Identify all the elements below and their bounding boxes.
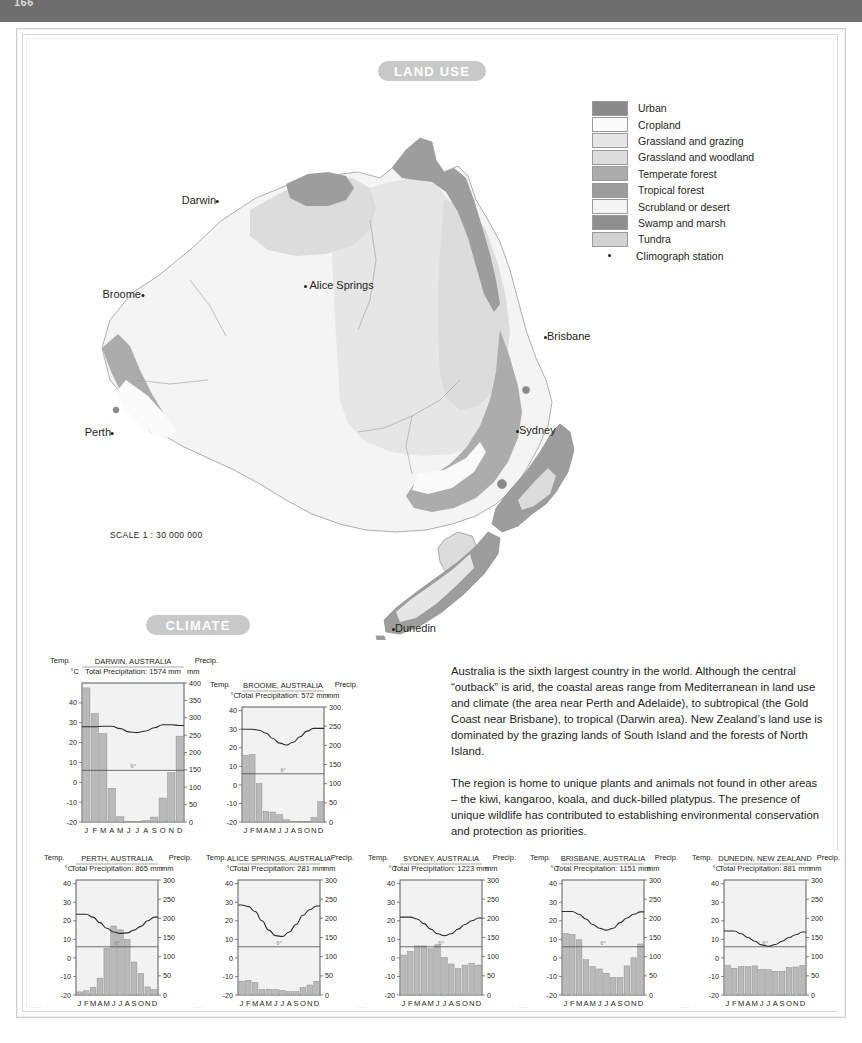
svg-text:0: 0: [391, 954, 395, 963]
svg-text:J: J: [84, 826, 88, 835]
climograph-chart: Temp.Precip.°CmmDUNEDIN, NEW ZEALANDTota…: [690, 850, 842, 1011]
svg-text:O: O: [462, 999, 468, 1008]
svg-text:30: 30: [69, 718, 77, 727]
svg-text:Temp.: Temp.: [44, 853, 64, 862]
precip-bar: [307, 985, 313, 995]
precip-bar: [252, 983, 258, 995]
city-label-darwin: Darwin: [182, 194, 219, 206]
svg-text:M: M: [414, 999, 420, 1008]
svg-text:mm: mm: [187, 667, 200, 676]
svg-text:A: A: [97, 999, 103, 1008]
precip-bar: [111, 926, 117, 995]
svg-text:A: A: [287, 999, 293, 1008]
svg-text:0: 0: [649, 991, 653, 1000]
precip-bar: [469, 963, 475, 995]
svg-text:Temp.: Temp.: [368, 853, 388, 862]
svg-text:J: J: [726, 999, 730, 1008]
svg-text:-10: -10: [547, 972, 557, 981]
precip-bar: [569, 934, 575, 995]
svg-text:-20: -20: [227, 818, 237, 827]
legend-swatch: [592, 133, 628, 148]
precip-bar: [401, 955, 407, 995]
precip-bar: [442, 957, 448, 995]
svg-text:N: N: [307, 999, 312, 1008]
legend-label: Climograph station: [636, 250, 724, 262]
svg-text:D: D: [476, 999, 482, 1008]
svg-text:J: J: [240, 999, 244, 1008]
precip-bar: [610, 977, 616, 995]
legend-label: Cropland: [638, 119, 681, 131]
legend-swatch: [592, 215, 628, 230]
precip-bar: [100, 734, 107, 822]
legend-item-urban: Urban: [592, 100, 822, 116]
svg-text:200: 200: [325, 914, 337, 923]
svg-text:0: 0: [233, 781, 237, 790]
precip-bar: [638, 944, 644, 995]
climograph-alice-springs: Temp.Precip.°CmmALICE SPRINGS, AUSTRALIA…: [204, 850, 356, 1011]
svg-text:0: 0: [163, 991, 167, 1000]
svg-text:O: O: [300, 999, 306, 1008]
svg-text:0: 0: [73, 778, 77, 787]
precip-bar: [152, 990, 158, 995]
svg-text:S: S: [132, 999, 137, 1008]
svg-text:BRISBANE, AUSTRALIA: BRISBANE, AUSTRALIA: [561, 854, 646, 863]
svg-text:N: N: [145, 999, 150, 1008]
precip-bar: [590, 967, 596, 995]
legend-label: Tundra: [638, 233, 671, 245]
precip-bar: [725, 965, 731, 995]
svg-text:A: A: [259, 999, 265, 1008]
svg-text:0: 0: [553, 954, 557, 963]
svg-text:S: S: [294, 999, 299, 1008]
svg-text:20: 20: [225, 916, 233, 925]
svg-text:D: D: [800, 999, 806, 1008]
precip-bar: [318, 802, 324, 822]
precip-bar: [772, 971, 778, 995]
svg-text:J: J: [598, 999, 602, 1008]
svg-text:A: A: [109, 826, 115, 835]
precip-bar: [745, 967, 751, 995]
svg-text:D: D: [318, 826, 324, 835]
svg-text:Total Precipitation: 881 mm: Total Precipitation: 881 mm: [719, 864, 811, 873]
precip-bar: [138, 974, 144, 995]
svg-text:20: 20: [549, 916, 557, 925]
svg-text:J: J: [760, 999, 764, 1008]
climograph-darwin: Temp.Precip.°CmmDARWIN, AUSTRALIATotal P…: [48, 653, 220, 838]
precip-bar: [793, 967, 799, 995]
svg-text:6°: 6°: [114, 940, 120, 946]
svg-text:50: 50: [325, 971, 333, 980]
svg-text:-20: -20: [547, 991, 557, 1000]
svg-text:J: J: [278, 826, 282, 835]
description-text: Australia is the sixth largest country i…: [451, 663, 826, 854]
svg-text:30: 30: [225, 898, 233, 907]
svg-text:Temp.: Temp.: [210, 680, 230, 689]
svg-text:DARWIN, AUSTRALIA: DARWIN, AUSTRALIA: [95, 657, 173, 666]
precip-bar: [407, 951, 413, 995]
svg-text:A: A: [263, 826, 269, 835]
precip-bar: [617, 977, 623, 995]
precip-bar: [284, 820, 290, 822]
svg-text:A: A: [125, 999, 131, 1008]
climograph-station-icon: [592, 249, 626, 262]
precip-bar: [286, 992, 292, 995]
svg-text:300: 300: [649, 876, 661, 885]
city-label-broome: Broome: [102, 288, 144, 300]
svg-text:Total Precipitation: 281 mm: Total Precipitation: 281 mm: [233, 864, 325, 873]
svg-text:Precip.: Precip.: [169, 853, 192, 862]
svg-text:250: 250: [811, 895, 823, 904]
svg-text:50: 50: [329, 798, 337, 807]
svg-text:J: J: [285, 826, 289, 835]
svg-text:M: M: [738, 999, 744, 1008]
precip-bar: [239, 981, 245, 995]
svg-text:10: 10: [63, 935, 71, 944]
svg-text:Total Precipitation: 1151 mm: Total Precipitation: 1151 mm: [555, 864, 650, 873]
svg-text:-20: -20: [61, 991, 71, 1000]
svg-text:30: 30: [229, 725, 237, 734]
svg-text:A: A: [421, 999, 427, 1008]
precip-bar: [624, 966, 630, 995]
svg-text:6°: 6°: [130, 763, 136, 769]
svg-text:200: 200: [163, 914, 175, 923]
svg-text:50: 50: [163, 971, 171, 980]
precip-bar: [168, 773, 175, 822]
svg-text:D: D: [314, 999, 320, 1008]
atlas-page: 166 LAND USE CLIMATE: [0, 0, 862, 1043]
